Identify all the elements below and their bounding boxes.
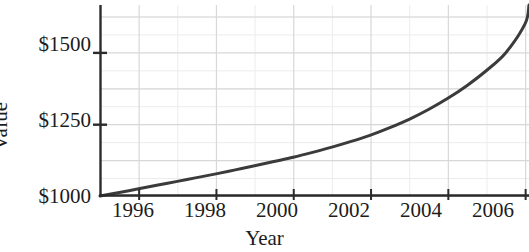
minor-gridlines [100,5,529,196]
y-tick-label-1000: $1000 [2,186,98,207]
y-tick-label-1500: $1500 [2,34,98,55]
major-gridlines [100,5,529,197]
plot-svg [100,5,529,196]
x-tick-label-1996: 1996 [97,200,169,221]
x-tick-label-2002: 2002 [313,200,385,221]
investment-growth-chart: Value $1500 $1250 $1000 1996 1998 2000 2… [0,0,529,252]
value-curve [100,5,529,196]
x-tick-label-2006: 2006 [457,200,529,221]
x-tick-label-1998: 1998 [169,200,241,221]
plot-area [100,5,529,196]
y-tick-label-1250: $1250 [2,110,98,131]
x-tick-label-2004: 2004 [385,200,457,221]
x-tick-label-2000: 2000 [241,200,313,221]
x-axis-title: Year [0,226,529,251]
